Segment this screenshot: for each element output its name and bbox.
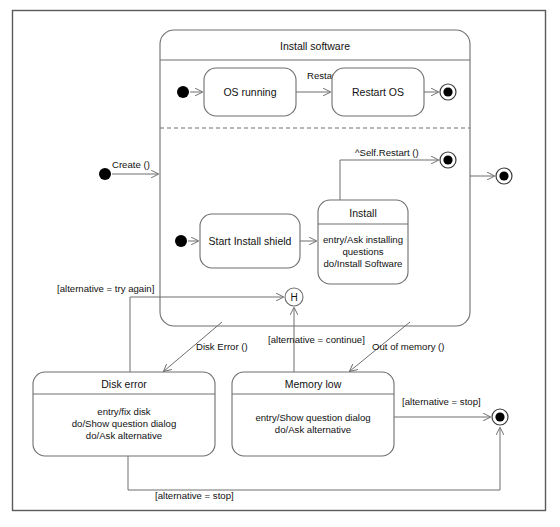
final-state-restart-os [440,84,456,100]
final-state-install-region [440,152,456,168]
state-memory-low-label: Memory low [285,378,342,390]
state-start-install-shield-label: Start Install shield [209,235,292,247]
state-install-body-line-2: questions [342,246,383,257]
transition-label-stop-bottom: [alternative = stop] [155,490,234,501]
state-disk-error[interactable]: Disk error entry/fix disk do/Show questi… [33,372,215,456]
state-disk-error-body-line-2: do/Show question dialog [72,418,177,429]
initial-pseudostate-os-running [177,86,189,98]
transition-label-disk-error: Disk Error () [196,341,248,352]
state-memory-low[interactable]: Memory low entry/Show question dialog do… [232,372,394,456]
state-disk-error-body-line-1: entry/fix disk [97,406,151,417]
state-os-running-label: OS running [223,86,276,98]
transition-label-stop-right: [alternative = stop] [402,396,481,407]
state-disk-error-body-line-3: do/Ask alternative [86,430,162,441]
state-memory-low-body-line-1: entry/Show question dialog [255,412,370,423]
uml-state-diagram: Install software OS running Restart () R… [0,0,560,527]
transition-label-try-again: [alternative = try again] [57,283,154,294]
final-state-outer-right [496,168,512,184]
initial-pseudostate-install [175,235,187,247]
state-disk-error-label: Disk error [101,378,147,390]
transition-label-self-restart: ^Self.Restart () [355,147,419,158]
transition-label-out-of-memory: Out of memory () [372,341,445,352]
state-memory-low-body-line-2: do/Ask alternative [275,424,351,435]
transition-label-create: Create () [112,159,150,170]
state-install-body-line-1: entry/Ask installing [323,234,403,245]
transition-label-continue: [alternative = continue] [268,334,365,345]
initial-pseudostate-outer [99,168,111,180]
history-pseudostate-label: H [290,292,297,303]
state-os-running[interactable]: OS running [204,68,296,116]
state-restart-os[interactable]: Restart OS [332,68,424,116]
state-install[interactable]: Install entry/Ask installing questions d… [318,200,408,284]
history-pseudostate[interactable]: H [285,288,303,306]
composite-state-title: Install software [280,40,350,52]
state-start-install-shield[interactable]: Start Install shield [200,214,300,268]
state-diagram-canvas: Install software OS running Restart () R… [0,0,560,527]
state-install-label: Install [349,207,376,219]
state-restart-os-label: Restart OS [352,86,404,98]
final-state-bottom-right [492,409,508,425]
state-install-body-line-3: do/Install Software [324,258,403,269]
